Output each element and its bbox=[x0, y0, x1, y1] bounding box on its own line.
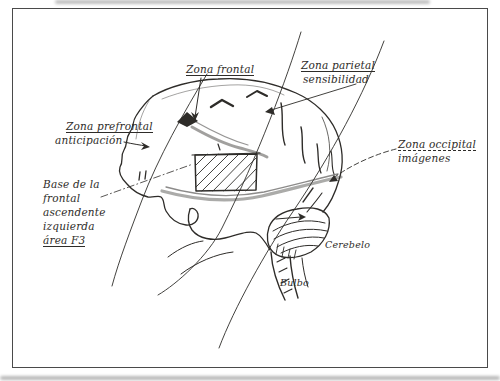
sweep-line-1 bbox=[112, 74, 207, 286]
sulcus-squiggle bbox=[331, 151, 334, 174]
label-zona-prefrontal-line2: anticipación bbox=[55, 133, 153, 147]
label-zona-prefrontal-line1: Zona prefrontal bbox=[66, 120, 153, 133]
label-bulbo-text: Bulbo bbox=[280, 277, 309, 288]
sulcus-mark bbox=[303, 188, 313, 202]
sulcus-mark bbox=[247, 91, 267, 97]
label-zona-occipital: Zona occipital imágenes bbox=[398, 137, 476, 165]
label-zona-occipital-line1: Zona occipital bbox=[398, 138, 476, 151]
label-cerebelo-text: Cerebelo bbox=[325, 239, 370, 250]
cerebellum-hatch bbox=[276, 244, 278, 254]
brainstem-hatch bbox=[279, 268, 287, 272]
brain-top-inner-line bbox=[162, 85, 284, 99]
cerebellum bbox=[267, 208, 329, 259]
sulci-shading bbox=[139, 91, 341, 274]
label-cerebelo: Cerebelo bbox=[325, 238, 370, 252]
sulcus-squiggle bbox=[281, 103, 285, 145]
label-base-frontal: Base de la frontal ascendente izquierda … bbox=[43, 177, 106, 247]
occipital-inner-curve bbox=[322, 117, 330, 171]
label-base-frontal-line4: izquierda bbox=[43, 219, 106, 233]
label-zona-frontal: Zona frontal bbox=[186, 62, 254, 76]
sulcus-mark bbox=[211, 100, 233, 107]
brainstem-hatch bbox=[277, 258, 285, 262]
label-zona-occipital-line2: imágenes bbox=[398, 151, 476, 165]
sylvian-band bbox=[162, 177, 341, 200]
label-base-frontal-line3: ascendente bbox=[43, 205, 106, 219]
frontal-leader-line bbox=[195, 78, 201, 117]
figure-page: Zona frontal Zona parietal sensibilidad … bbox=[0, 0, 500, 381]
parietal-leader-line bbox=[268, 84, 356, 111]
precentral-band bbox=[192, 127, 267, 157]
cerebellum-folia bbox=[281, 245, 318, 253]
under-temporal-curve bbox=[168, 241, 203, 257]
brain-temporal-underside bbox=[188, 209, 270, 250]
label-base-frontal-line1: Base de la bbox=[43, 177, 106, 191]
label-zona-parietal-line1: Zona parietal bbox=[301, 59, 375, 72]
frontal-tick bbox=[218, 144, 220, 150]
label-zona-prefrontal: Zona prefrontal anticipación bbox=[55, 119, 153, 147]
label-zona-parietal: Zona parietal sensibilidad bbox=[301, 58, 375, 86]
parietal-leader-arrowhead bbox=[265, 107, 275, 115]
label-zona-frontal-text: Zona frontal bbox=[186, 63, 254, 76]
sulcus-squiggle bbox=[301, 127, 305, 163]
label-base-frontal-line2: frontal bbox=[43, 191, 106, 205]
rectangle-hatching bbox=[196, 154, 256, 191]
label-base-frontal-line5: área F3 bbox=[43, 234, 85, 247]
label-zona-parietal-line2: sensibilidad bbox=[303, 72, 375, 86]
label-bulbo: Bulbo bbox=[280, 276, 309, 290]
frontal-tick bbox=[145, 171, 146, 179]
frontal-tick bbox=[139, 172, 140, 180]
hatched-area-rectangle bbox=[192, 153, 260, 191]
base-f3-leader-line bbox=[101, 164, 193, 197]
